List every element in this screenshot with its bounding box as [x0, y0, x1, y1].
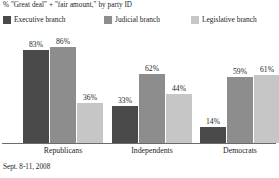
- bar-rect: [166, 94, 192, 143]
- bar-independents-legislative-branch: 44%: [166, 31, 192, 143]
- plot-area: 83% 86% 36% 33% 62% 44%: [0, 28, 279, 144]
- category-label-democrats: Democrats: [200, 146, 279, 155]
- chart-title: % "Great deal" + "fair amount," by party…: [3, 1, 132, 9]
- bar-group-democrats: 14% 59% 61%: [200, 31, 279, 143]
- legend-item-legislative-branch: Legislative branch: [191, 15, 257, 24]
- legend-swatch-legislative-branch: [191, 16, 199, 24]
- legend-label-judicial-branch: Judicial branch: [115, 15, 160, 24]
- chart-footnote: Sept. 8-11, 2008: [3, 163, 50, 171]
- bar-value-label: 36%: [83, 93, 97, 102]
- bar-value-label: 59%: [233, 67, 247, 76]
- legend-swatch-executive-branch: [3, 16, 11, 24]
- bar-value-label: 44%: [172, 84, 186, 93]
- bar-republicans-judicial-branch: 86%: [50, 31, 76, 143]
- chart-legend: Executive branch Judicial branch Legisla…: [3, 15, 276, 26]
- bar-value-label: 14%: [206, 117, 220, 126]
- bar-rect: [227, 77, 253, 143]
- bar-rect: [50, 47, 76, 143]
- bar-republicans-legislative-branch: 36%: [77, 31, 103, 143]
- category-label-independents: Independents: [112, 146, 192, 155]
- bar-rect: [112, 106, 138, 143]
- bar-value-label: 83%: [29, 40, 43, 49]
- bar-independents-executive-branch: 33%: [112, 31, 138, 143]
- bar-group-republicans: 83% 86% 36%: [23, 31, 103, 143]
- bar-rect: [77, 103, 103, 143]
- bar-rect: [254, 75, 279, 143]
- bar-democrats-executive-branch: 14%: [200, 31, 226, 143]
- bar-chart: % "Great deal" + "fair amount," by party…: [0, 0, 279, 178]
- bar-value-label: 61%: [260, 65, 274, 74]
- bar-value-label: 86%: [56, 37, 70, 46]
- axis-baseline: [2, 143, 276, 144]
- bar-democrats-judicial-branch: 59%: [227, 31, 253, 143]
- bar-rect: [139, 74, 165, 143]
- bar-republicans-executive-branch: 83%: [23, 31, 49, 143]
- legend-label-executive-branch: Executive branch: [14, 15, 66, 24]
- category-axis-labels: Republicans Independents Democrats: [0, 146, 279, 158]
- legend-item-judicial-branch: Judicial branch: [104, 15, 160, 24]
- bar-value-label: 62%: [145, 64, 159, 73]
- bar-independents-judicial-branch: 62%: [139, 31, 165, 143]
- bar-democrats-legislative-branch: 61%: [254, 31, 279, 143]
- legend-label-legislative-branch: Legislative branch: [202, 15, 257, 24]
- bar-rect: [23, 50, 49, 143]
- legend-swatch-judicial-branch: [104, 16, 112, 24]
- bar-rect: [200, 127, 226, 143]
- bar-value-label: 33%: [118, 96, 132, 105]
- legend-item-executive-branch: Executive branch: [3, 15, 66, 24]
- category-label-republicans: Republicans: [23, 146, 103, 155]
- bar-group-independents: 33% 62% 44%: [112, 31, 192, 143]
